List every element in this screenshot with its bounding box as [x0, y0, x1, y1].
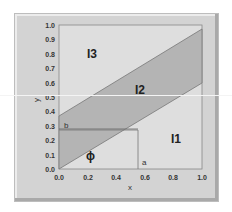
svg-text:0.3: 0.3 — [45, 123, 55, 130]
annotation-b: b — [64, 121, 69, 130]
region-label-i1: I1 — [171, 132, 181, 146]
svg-text:0.6: 0.6 — [45, 80, 55, 87]
svg-text:1.0: 1.0 — [45, 22, 55, 29]
x-axis-ticks: 0.0 0.2 0.4 0.6 0.8 1.0 — [54, 174, 207, 181]
svg-text:0.6: 0.6 — [140, 174, 150, 181]
svg-text:0.8: 0.8 — [168, 174, 178, 181]
svg-text:0.9: 0.9 — [45, 36, 55, 43]
svg-text:0.7: 0.7 — [45, 65, 55, 72]
x-axis-label: x — [128, 183, 132, 192]
chart-plot: I3 I2 I1 ϕ b a 1.0 0.9 0.8 0.7 0.6 0.5 0… — [0, 0, 232, 212]
region-label-i3: I3 — [87, 47, 97, 61]
svg-text:0.2: 0.2 — [83, 174, 93, 181]
svg-text:1.0: 1.0 — [197, 174, 207, 181]
region-label-phi: ϕ — [86, 149, 95, 163]
svg-text:0.2: 0.2 — [45, 137, 55, 144]
scanline-artifact — [0, 95, 232, 96]
svg-text:0.1: 0.1 — [45, 152, 55, 159]
annotation-a: a — [142, 158, 147, 167]
svg-text:0.8: 0.8 — [45, 51, 55, 58]
svg-text:0.0: 0.0 — [54, 174, 64, 181]
svg-text:0.4: 0.4 — [111, 174, 121, 181]
y-axis-ticks: 1.0 0.9 0.8 0.7 0.6 0.5 0.4 0.3 0.2 0.1 … — [45, 22, 55, 173]
svg-text:0.0: 0.0 — [45, 166, 55, 173]
svg-text:0.4: 0.4 — [45, 108, 55, 115]
y-axis-label: y — [32, 98, 41, 102]
